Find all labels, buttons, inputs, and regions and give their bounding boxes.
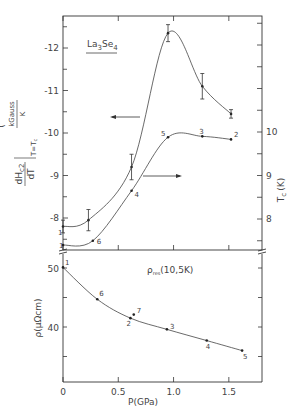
rho-point xyxy=(62,266,65,269)
rho-point-label: 2 xyxy=(126,320,130,328)
right-y-tick-label: 9 xyxy=(266,171,272,181)
rho-point xyxy=(129,317,132,320)
right-y-axis-label: Tc(K) xyxy=(276,178,288,203)
rho-point-label: 1 xyxy=(65,259,69,267)
data-curves xyxy=(63,31,242,351)
tc-point-label: 5 xyxy=(161,130,165,138)
tc-point-label: 4 xyxy=(135,191,140,199)
lower-y-tick-label: 40 xyxy=(48,323,60,333)
svg-text:ρ(μΩcm): ρ(μΩcm) xyxy=(33,298,43,337)
x-tick-label: 0 xyxy=(60,387,66,397)
tc-point xyxy=(167,136,170,139)
rho-point-label: 5 xyxy=(243,353,247,361)
left-y-tick-label: -9 xyxy=(50,171,59,181)
tc-point xyxy=(130,189,133,192)
rho-point xyxy=(241,349,244,352)
left-arrowhead xyxy=(110,115,116,119)
rho-point xyxy=(166,328,169,331)
rho-res-annotation: ρres(10,5K) xyxy=(147,265,193,276)
tc-point-label: 6 xyxy=(97,238,102,246)
right-y-tick-label: 8 xyxy=(266,214,272,224)
left-y-tick-label: -12 xyxy=(44,43,59,53)
tc-point xyxy=(92,239,95,242)
left-y-axis-label: dHc2 dT T=Tc ( kGauss K xyxy=(0,100,38,186)
left-y-tick-label: -11 xyxy=(44,86,59,96)
rho-curve xyxy=(63,267,242,350)
chart-title: La3Se4 xyxy=(87,39,118,52)
left-y-tick-label: -10 xyxy=(44,128,59,138)
lower-y-axis-label: ρ(μΩcm) xyxy=(33,298,43,337)
rho-point xyxy=(205,339,208,342)
axes-frames xyxy=(59,16,266,382)
dhc2dt-curve xyxy=(63,31,231,227)
dhc2dt-point-label: 1 xyxy=(58,229,62,237)
x-tick-label: 1.5 xyxy=(222,387,236,397)
svg-text:(: ( xyxy=(0,124,6,128)
svg-text:K: K xyxy=(19,111,27,116)
left-y-tick-label: -8 xyxy=(50,213,59,223)
tc-point-label: 2 xyxy=(234,131,238,139)
x-tick-label: 1.0 xyxy=(166,387,181,397)
svg-text:T=Tc: T=Tc xyxy=(30,139,38,157)
rho-point-label: 4 xyxy=(206,343,211,351)
lower-y-tick-label: 50 xyxy=(48,264,60,274)
axis-ticks: 00.51.01.5-12-11-10-9-889105040 xyxy=(44,16,277,397)
rho-point xyxy=(96,298,99,301)
svg-text:Tc(K): Tc(K) xyxy=(276,178,288,203)
data-marks: 11645321627345 xyxy=(58,25,248,361)
rho-point xyxy=(132,313,135,316)
tc-point xyxy=(230,138,233,141)
rho-point-label: 3 xyxy=(170,323,174,331)
svg-text:dT: dT xyxy=(26,168,36,180)
tc-point-label: 1 xyxy=(59,242,63,250)
svg-text:kGauss: kGauss xyxy=(8,101,16,127)
right-y-tick-label: 10 xyxy=(266,127,278,137)
right-arrowhead xyxy=(176,174,182,178)
tc-point-label: 3 xyxy=(199,128,203,136)
rho-point-label: 7 xyxy=(137,307,141,315)
svg-text:dHc2: dHc2 xyxy=(14,164,26,185)
rho-point-label: 6 xyxy=(99,290,104,298)
x-axis-label: P(GPa) xyxy=(128,397,158,407)
chart-figure: 00.51.01.5-12-11-10-9-889105040 11645321… xyxy=(0,0,299,418)
x-tick-label: 0.5 xyxy=(111,387,125,397)
